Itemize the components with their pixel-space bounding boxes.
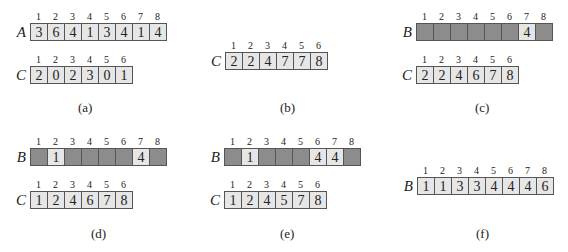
index-label: 2: [47, 179, 64, 191]
index-label: 7: [132, 136, 149, 148]
array-cell: 1: [82, 24, 99, 40]
index-label: 6: [309, 179, 326, 191]
array-cell: 4: [150, 24, 166, 40]
array-cell: 1: [133, 24, 150, 40]
index-label: 5: [484, 54, 501, 66]
array-cell: 3: [452, 178, 469, 194]
array-cell: 4: [520, 178, 537, 194]
array-cell: 4: [486, 178, 503, 194]
array-cell: 2: [48, 192, 65, 208]
array-cell: 6: [537, 178, 553, 194]
array-cell: 1: [48, 149, 65, 165]
array-b: B123456784: [398, 11, 553, 41]
array-c: C123456224778: [207, 40, 328, 70]
array-cell: 8: [116, 192, 132, 208]
array-cell: 4: [451, 67, 468, 83]
array-b: B1234567814: [12, 136, 167, 166]
index-label: 4: [81, 54, 98, 66]
index-label: 1: [225, 40, 242, 52]
array-cell: 3: [99, 24, 116, 40]
index-label: 4: [467, 11, 484, 23]
array-cell: [225, 149, 242, 165]
index-label: 2: [241, 179, 258, 191]
array-cell: 4: [503, 178, 520, 194]
array-c: C123456202301: [12, 54, 133, 84]
array-cell: 7: [99, 192, 116, 208]
index-label: 1: [30, 179, 47, 191]
array-cell: 4: [310, 149, 327, 165]
array-cell: [116, 149, 133, 165]
array-cell: [293, 149, 310, 165]
array-cell: [276, 149, 293, 165]
array-cell: 0: [48, 67, 65, 83]
array-cell: 4: [116, 24, 133, 40]
panel-caption: (c): [475, 100, 489, 116]
array-cell: [434, 24, 451, 40]
array-cell: 2: [65, 67, 82, 83]
index-label: 6: [309, 136, 326, 148]
index-label: 4: [276, 40, 293, 52]
array-cell: 8: [502, 67, 518, 83]
array-cell: 3: [31, 24, 48, 40]
array-cell: 6: [48, 24, 65, 40]
array-cell: 1: [242, 149, 259, 165]
index-label: 1: [416, 11, 433, 23]
array-b: B12345678144: [206, 136, 361, 166]
index-label: 6: [501, 54, 518, 66]
index-label: 1: [224, 136, 241, 148]
panel-caption: (d): [91, 226, 106, 242]
index-label: 5: [292, 179, 309, 191]
array-name: C: [12, 66, 26, 84]
array-cell: [31, 149, 48, 165]
array-cell: 3: [469, 178, 486, 194]
index-label: 2: [242, 40, 259, 52]
array-cell: 6: [82, 192, 99, 208]
index-label: 5: [293, 40, 310, 52]
array-c: C123456124578: [206, 179, 327, 209]
index-label: 2: [47, 136, 64, 148]
array-cell: 8: [311, 53, 327, 69]
index-label: 6: [502, 165, 519, 177]
index-label: 5: [98, 54, 115, 66]
array-cell: 4: [133, 149, 150, 165]
array-cell: 1: [435, 178, 452, 194]
index-label: 1: [30, 54, 47, 66]
index-label: 3: [64, 54, 81, 66]
array-cell: [502, 24, 519, 40]
array-cell: 4: [519, 24, 536, 40]
index-label: 7: [518, 11, 535, 23]
index-label: 5: [98, 136, 115, 148]
array-cell: 7: [293, 192, 310, 208]
index-label: 3: [450, 11, 467, 23]
array-cell: 7: [277, 53, 294, 69]
array-cell: 1: [116, 67, 132, 83]
array-name: C: [207, 52, 221, 70]
index-label: 2: [433, 11, 450, 23]
array-cell: [82, 149, 99, 165]
index-label: 5: [292, 136, 309, 148]
array-cell: 4: [327, 149, 344, 165]
index-label: 7: [326, 136, 343, 148]
index-label: 2: [47, 54, 64, 66]
array-cell: [99, 149, 116, 165]
index-label: 6: [115, 11, 132, 23]
array-name: A: [12, 23, 26, 41]
index-label: 3: [451, 165, 468, 177]
index-label: 5: [484, 11, 501, 23]
index-label: 7: [132, 11, 149, 23]
array-name: C: [12, 191, 26, 209]
array-cell: 8: [310, 192, 326, 208]
index-label: 1: [416, 54, 433, 66]
index-label: 3: [258, 179, 275, 191]
index-label: 5: [98, 11, 115, 23]
index-label: 4: [81, 179, 98, 191]
array-cell: 3: [82, 67, 99, 83]
array-cell: [417, 24, 434, 40]
array-cell: 7: [485, 67, 502, 83]
index-label: 4: [81, 11, 98, 23]
array-cell: 4: [65, 24, 82, 40]
index-label: 1: [30, 136, 47, 148]
array-name: B: [12, 148, 26, 166]
index-label: 4: [468, 165, 485, 177]
array-cell: [485, 24, 502, 40]
